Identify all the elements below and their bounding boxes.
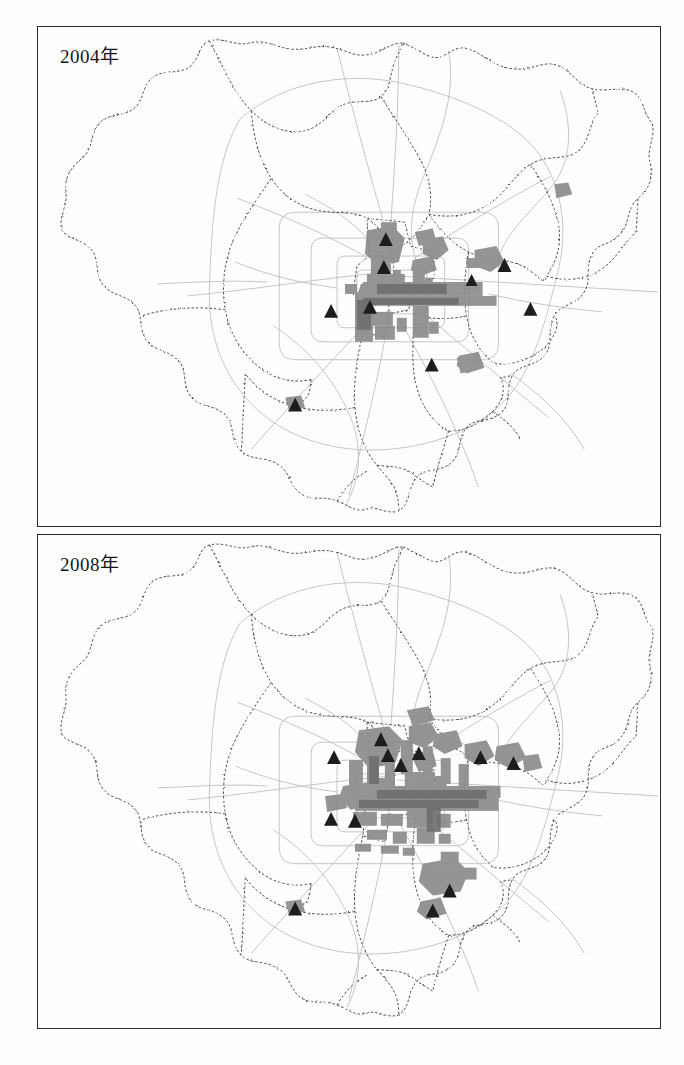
panel-label-2008: 2008年: [60, 549, 120, 576]
panel-label-2004: 2004年: [60, 41, 120, 68]
urban-patches-2008: [285, 706, 542, 919]
map-panel-2004: 2004年: [37, 26, 661, 527]
map-graphic-2008: [38, 535, 660, 1028]
map-graphic-2004: [38, 27, 660, 526]
figure-page: 2004年: [0, 0, 684, 1065]
map-panel-2008: 2008年: [37, 534, 661, 1029]
